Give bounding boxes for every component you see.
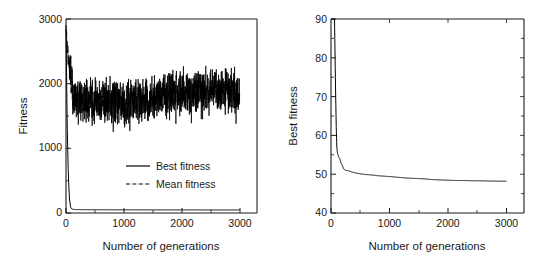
right-x-top-ticks [390,19,507,23]
right-plot-right-edge-ticks [520,38,524,193]
right-plot-frame [331,19,524,213]
legend-label-best-fitness: Best fitness [156,160,210,172]
left-y-axis-label: Fitness [17,97,29,134]
right-y-tick-90: 90 [315,13,327,25]
right-x-tick-1000: 1000 [378,217,402,229]
left-mean-fitness-line [66,29,240,132]
left-x-tick-0: 0 [63,217,69,229]
right-y-tick-60: 60 [315,129,327,141]
left-y-tick-2000: 2000 [39,77,63,89]
chart-panel-left: Fitness 3000 2000 1000 0 [0,0,275,273]
left-y-tick-0: 0 [56,206,62,218]
right-data-series [331,19,506,181]
legend-label-mean-fitness: Mean fitness [156,178,216,190]
right-y-tick-50: 50 [315,168,327,180]
right-x-tick-0: 0 [328,217,334,229]
figure-two-panel-fitness-plots: Fitness 3000 2000 1000 0 [0,0,550,273]
chart-panel-right: Best fitness 90 80 70 60 50 40 [275,0,550,273]
right-x-axis-label: Number of generations [369,240,486,252]
left-x-tick-1000: 1000 [112,217,136,229]
right-best-fitness-line [331,19,506,181]
left-x-tick-3000: 3000 [228,217,252,229]
right-plot-svg: Best fitness 90 80 70 60 50 40 [275,0,550,273]
right-x-tick-3000: 3000 [495,217,519,229]
left-plot-svg: Fitness 3000 2000 1000 0 [0,0,275,273]
right-y-tick-80: 80 [315,52,327,64]
left-y-tick-1000: 1000 [39,141,63,153]
left-x-tick-2000: 2000 [170,217,194,229]
right-y-axis-label: Best fitness [287,86,299,146]
left-x-axis-label: Number of generations [103,240,220,252]
right-x-tick-2000: 2000 [436,217,460,229]
right-y-tick-70: 70 [315,91,327,103]
left-legend: Best fitness Mean fitness [126,160,216,190]
left-y-tick-3000: 3000 [39,13,63,25]
right-y-tick-40: 40 [315,206,327,218]
